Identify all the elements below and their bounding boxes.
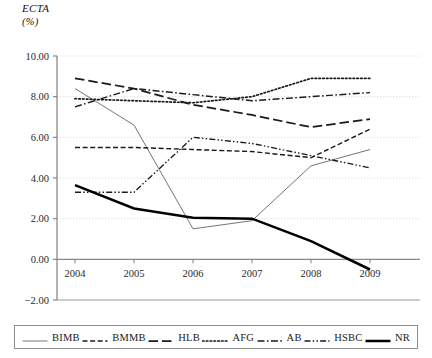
legend-label: BMMB: [112, 332, 145, 343]
legend-swatch-bimb: [22, 332, 48, 342]
series-line-bmmb: [75, 129, 370, 157]
data-series-lines: [75, 78, 370, 269]
legend-swatch-nr: [365, 332, 391, 342]
y-axis-tick-labels: 10.008.006.004.002.000.00−2.00: [25, 51, 49, 306]
x-tick-label: 2009: [360, 268, 381, 279]
series-line-hlb: [75, 78, 370, 127]
x-tick-label: 2004: [65, 268, 87, 279]
series-line-afg: [75, 78, 370, 102]
legend-item-ab[interactable]: AB: [257, 332, 302, 343]
legend-swatch-bmmb: [82, 332, 108, 342]
x-tick-label: 2008: [301, 268, 322, 279]
x-tick-label: 2005: [124, 268, 145, 279]
ecta-line-chart: ECTA (%) 10.008.006.004.002.000.00−2.00 …: [0, 0, 432, 358]
y-tick-label: 8.00: [31, 91, 49, 102]
legend-label: HSBC: [334, 332, 362, 343]
legend-label: BIMB: [52, 332, 80, 343]
plot-area: 10.008.006.004.002.000.00−2.00 200420052…: [0, 0, 432, 322]
y-tick-label: 2.00: [31, 213, 49, 224]
legend-swatch-afg: [202, 332, 228, 342]
series-line-hsbc: [75, 137, 370, 192]
legend-label: NR: [395, 332, 410, 343]
gridlines: [57, 56, 420, 259]
legend-item-nr[interactable]: NR: [365, 332, 410, 343]
legend-label: HLB: [178, 332, 200, 343]
y-tick-label: −2.00: [25, 295, 49, 306]
x-tick-label: 2007: [242, 268, 263, 279]
legend-swatch-ab: [257, 332, 283, 342]
legend-item-hlb[interactable]: HLB: [148, 332, 200, 343]
legend-item-bmmb[interactable]: BMMB: [82, 332, 145, 343]
legend-swatch-hsbc: [304, 332, 330, 342]
y-tick-label: 6.00: [31, 132, 49, 143]
legend-item-afg[interactable]: AFG: [202, 332, 254, 343]
legend-label: AFG: [232, 332, 254, 343]
y-tick-label: 0.00: [31, 254, 49, 265]
chart-legend: BIMBBMMBHLBAFGABHSBCNR: [14, 325, 418, 349]
series-line-nr: [75, 185, 370, 269]
legend-label: AB: [287, 332, 302, 343]
y-tick-label: 10.00: [25, 51, 49, 62]
series-line-ab: [75, 89, 370, 107]
legend-swatch-hlb: [148, 332, 174, 342]
x-axis-tick-labels: 200420052006200720082009: [65, 268, 381, 279]
x-tick-label: 2006: [183, 268, 204, 279]
legend-item-bimb[interactable]: BIMB: [22, 332, 80, 343]
legend-item-hsbc[interactable]: HSBC: [304, 332, 362, 343]
y-tick-label: 4.00: [31, 173, 49, 184]
